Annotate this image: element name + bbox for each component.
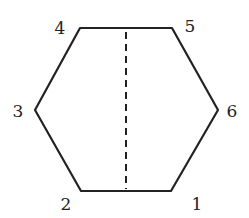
vertex-label-1: 1 bbox=[192, 194, 203, 214]
vertex-label-5: 5 bbox=[185, 16, 196, 36]
diagram-svg: 123456 bbox=[0, 0, 249, 218]
vertex-label-4: 4 bbox=[55, 18, 66, 38]
vertex-label-3: 3 bbox=[13, 101, 24, 121]
vertex-label-2: 2 bbox=[61, 194, 72, 214]
hexagon-diagram: 123456 bbox=[0, 0, 249, 218]
vertex-label-6: 6 bbox=[227, 101, 238, 121]
